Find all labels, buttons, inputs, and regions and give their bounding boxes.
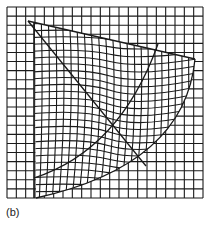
deformed-sector xyxy=(20,10,205,205)
deformed-mesh-diagram xyxy=(0,0,210,205)
figure-label: (b) xyxy=(6,206,19,218)
